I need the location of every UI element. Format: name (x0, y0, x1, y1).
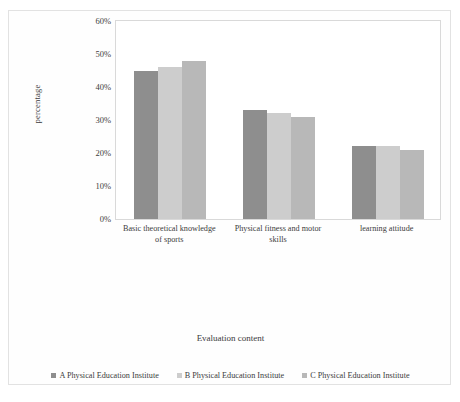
x-label-line: Physical fitness and motor (216, 223, 341, 234)
y-axis-tick-30: 30% (95, 116, 111, 125)
legend-label: B Physical Education Institute (185, 371, 284, 380)
y-axis-tick-20: 20% (95, 149, 111, 158)
y-axis-tick-10: 10% (95, 182, 111, 191)
chart-legend: A Physical Education InstituteB Physical… (9, 371, 452, 380)
y-axis-tick-40: 40% (95, 83, 111, 92)
bar-group (333, 21, 442, 219)
legend-label: C Physical Education Institute (310, 371, 409, 380)
bar[interactable] (352, 146, 376, 219)
y-axis-tick-60: 60% (95, 17, 111, 26)
x-axis-tick-labels: Basic theoretical knowledgeof sportsPhys… (115, 223, 441, 257)
bar-group (225, 21, 334, 219)
x-axis-tick-label: Physical fitness and motorskills (216, 223, 341, 245)
plot-inner (116, 21, 440, 219)
plot-area (115, 20, 441, 220)
bar[interactable] (376, 146, 400, 219)
bar[interactable] (267, 113, 291, 219)
legend-item-3[interactable]: C Physical Education Institute (302, 371, 409, 380)
bar[interactable] (182, 61, 206, 219)
bar[interactable] (243, 110, 267, 219)
bar[interactable] (291, 117, 315, 219)
bar[interactable] (400, 150, 424, 219)
bar-chart: percentage 0%10%20%30%40%50%60% Basic th… (9, 11, 452, 341)
bar[interactable] (134, 71, 158, 220)
legend-item-1[interactable]: A Physical Education Institute (51, 371, 158, 380)
x-label-line: learning attitude (324, 223, 449, 234)
y-axis-tick-50: 50% (95, 50, 111, 59)
y-axis-tick-labels: 0%10%20%30%40%50%60% (69, 20, 115, 220)
legend-swatch-icon (302, 373, 307, 378)
legend-item-2[interactable]: B Physical Education Institute (177, 371, 284, 380)
y-axis-title: percentage (32, 54, 42, 154)
legend-swatch-icon (177, 373, 182, 378)
bar[interactable] (158, 67, 182, 219)
legend-label: A Physical Education Institute (59, 371, 158, 380)
bar-group (116, 21, 225, 219)
x-label-line: of sports (107, 234, 232, 245)
x-label-line: Basic theoretical knowledge (107, 223, 232, 234)
x-axis-tick-label: learning attitude (324, 223, 449, 234)
x-axis-title: Evaluation content (9, 333, 452, 343)
x-axis-tick-label: Basic theoretical knowledgeof sports (107, 223, 232, 245)
y-axis-tick-0: 0% (100, 215, 111, 224)
figure-frame: percentage 0%10%20%30%40%50%60% Basic th… (8, 10, 451, 385)
legend-swatch-icon (51, 373, 56, 378)
x-label-line: skills (216, 234, 341, 245)
